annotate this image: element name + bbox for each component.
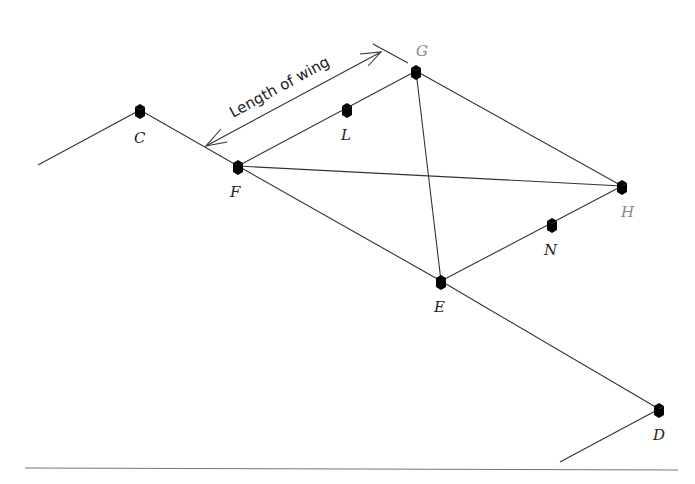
peg-D bbox=[654, 403, 664, 418]
dimension-line bbox=[206, 52, 381, 146]
peg-C bbox=[135, 104, 145, 119]
line-H-E bbox=[441, 186, 622, 281]
line-C-F bbox=[140, 110, 238, 166]
label-N: N bbox=[543, 241, 558, 259]
label-G: G bbox=[416, 42, 428, 60]
peg-E bbox=[436, 275, 446, 290]
label-D: D bbox=[652, 426, 665, 444]
label-F: F bbox=[229, 183, 241, 201]
label-E: E bbox=[433, 298, 445, 316]
diagonal-F-H bbox=[238, 166, 622, 186]
peg-H bbox=[617, 180, 627, 195]
line-E-D bbox=[441, 281, 659, 409]
label-C: C bbox=[134, 129, 146, 147]
peg-F bbox=[233, 160, 243, 175]
peg-G bbox=[411, 65, 421, 80]
line-start-C bbox=[38, 110, 140, 165]
peg-N bbox=[547, 218, 557, 233]
label-L: L bbox=[340, 126, 351, 144]
line-D-end bbox=[560, 409, 659, 462]
peg-L bbox=[342, 103, 352, 118]
arrowhead-left-icon bbox=[206, 129, 227, 146]
wing-length-dimension: Length of wing bbox=[206, 44, 408, 146]
wing-layout-diagram: Length of wing C F L G H N E D bbox=[0, 0, 695, 484]
line-G-H bbox=[416, 71, 622, 186]
line-F-E bbox=[238, 166, 441, 281]
bottom-rule bbox=[25, 468, 678, 470]
label-H: H bbox=[620, 203, 635, 221]
